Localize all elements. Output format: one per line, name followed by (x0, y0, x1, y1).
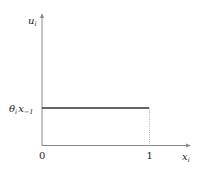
y-axis-arrow-icon (40, 13, 44, 18)
x-tick-1: 1 (147, 150, 153, 161)
x-tick-0: 0 (39, 150, 45, 161)
plot-canvas: ui θix−1 0 1 xi (0, 0, 203, 170)
x-axis-arrow-icon (186, 144, 191, 148)
level-label: θix−1 (9, 103, 33, 116)
x-axis-label: xi (182, 151, 190, 164)
y-axis-label: ui (28, 15, 37, 28)
